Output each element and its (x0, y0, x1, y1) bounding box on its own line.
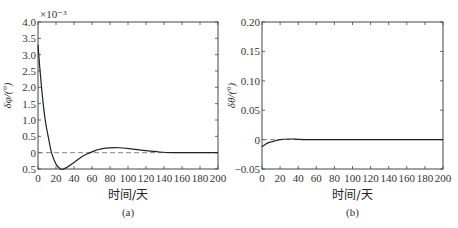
y-tick-label: 2.5 (22, 65, 36, 77)
y-tick-label: 0.15 (241, 45, 261, 57)
y-tick-label: −0.05 (235, 163, 261, 175)
x-tick-label: 120 (362, 172, 379, 184)
x-tick-label: 180 (192, 172, 209, 184)
y-axis-label: δφ/(°) (1, 82, 14, 108)
panel-b: 020406080100120140160180200−0.0500.050.1… (225, 16, 452, 219)
x-tick-label: 20 (275, 172, 287, 184)
x-tick-label: 200 (435, 172, 452, 184)
x-tick-label: 0 (259, 172, 265, 184)
x-tick-label: 60 (311, 172, 323, 184)
plot-frame (262, 22, 443, 169)
x-tick-label: 100 (120, 172, 137, 184)
y-tick-label: 3.0 (22, 49, 36, 61)
series-line (262, 139, 443, 147)
y-tick-label: 2.0 (22, 81, 36, 93)
x-tick-label: 140 (156, 172, 173, 184)
x-tick-label: 180 (417, 172, 434, 184)
y-tick-label: 0.05 (241, 104, 261, 116)
y-tick-label: 0.10 (241, 75, 261, 87)
y-tick-label: 0.5 (22, 163, 36, 175)
y-tick-label: 0.5 (22, 130, 36, 142)
y-tick-label: 0 (255, 134, 261, 146)
y-tick-label: 0 (31, 147, 37, 159)
x-tick-label: 120 (138, 172, 155, 184)
y-tick-label: 1.0 (22, 114, 36, 126)
x-tick-label: 200 (210, 172, 227, 184)
x-tick-label: 160 (174, 172, 191, 184)
x-tick-label: 40 (69, 172, 81, 184)
plot-frame (38, 22, 218, 169)
series-line (38, 45, 218, 170)
y-scale-note: ×10⁻³ (40, 8, 67, 20)
y-tick-label: 1.5 (22, 98, 36, 110)
y-tick-label: 4.0 (22, 16, 36, 28)
x-axis-label: 时间/天 (332, 188, 372, 202)
x-tick-label: 80 (105, 172, 117, 184)
y-tick-label: 0.20 (241, 16, 261, 28)
panel-caption: (a) (122, 206, 135, 219)
x-tick-label: 160 (399, 172, 416, 184)
x-tick-label: 100 (344, 172, 361, 184)
x-tick-label: 20 (51, 172, 63, 184)
panel-caption: (b) (346, 206, 359, 219)
y-tick-label: 3.5 (22, 32, 36, 44)
panel-a: 0204060801001201401601802000.500.51.01.5… (1, 8, 227, 219)
x-axis-label: 时间/天 (108, 188, 148, 202)
x-tick-label: 0 (35, 172, 41, 184)
x-tick-label: 140 (380, 172, 397, 184)
x-tick-label: 40 (293, 172, 305, 184)
x-tick-label: 60 (87, 172, 99, 184)
x-tick-label: 80 (329, 172, 341, 184)
y-axis-label: δθ/(°) (225, 83, 238, 109)
chart-canvas: 0204060801001201401601802000.500.51.01.5… (0, 0, 458, 228)
